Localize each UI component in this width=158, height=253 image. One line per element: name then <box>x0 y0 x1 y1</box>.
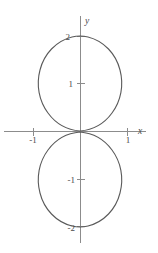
x-tick-label-minus-one: -1 <box>29 135 37 145</box>
x-axis-label: x <box>137 126 143 136</box>
y-tick-label-minus-two: -2 <box>68 223 76 233</box>
y-axis-label: y <box>84 16 90 26</box>
curve-figure: 2 1 -1 -2 -1 1 x y <box>0 0 158 253</box>
y-tick-label-two: 2 <box>66 32 71 42</box>
y-tick-label-one: 1 <box>69 79 74 89</box>
y-tick-label-minus-one: -1 <box>68 175 76 185</box>
x-tick-label-one: 1 <box>126 135 131 145</box>
plot-canvas: 2 1 -1 -2 -1 1 x y <box>0 0 158 253</box>
